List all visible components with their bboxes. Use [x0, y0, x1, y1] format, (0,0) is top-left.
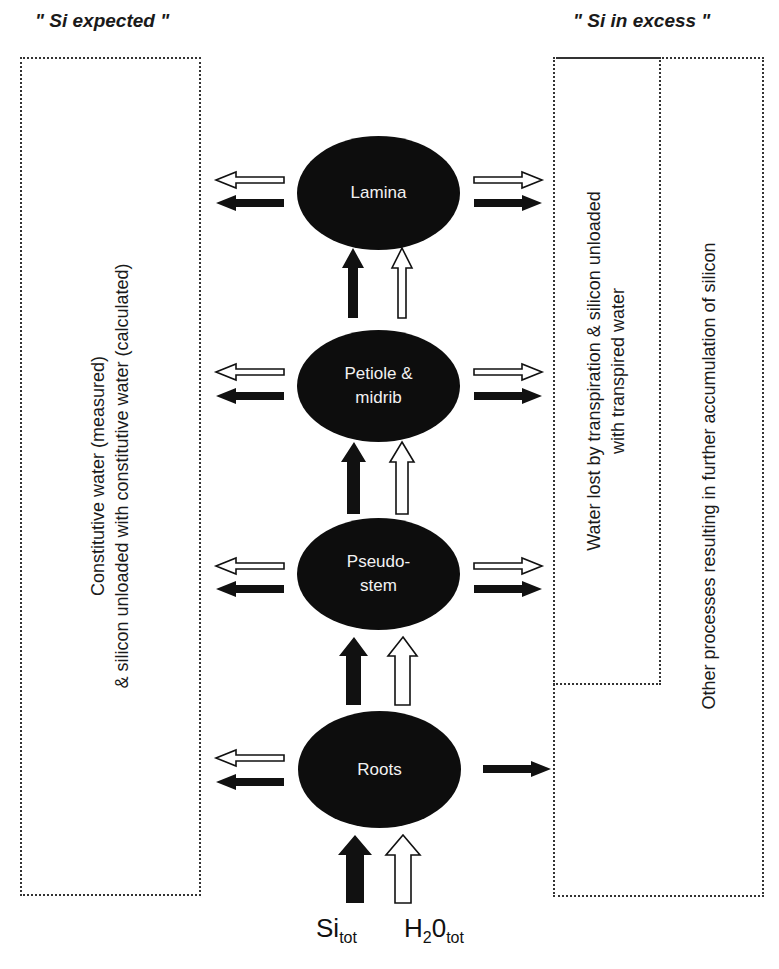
arrow-petiole-water-right	[474, 364, 542, 380]
arrow-si-input-to-roots	[338, 835, 372, 903]
si-base: Si	[316, 913, 339, 943]
arrow-pseudostem-si-left	[216, 581, 284, 597]
node-pseudostem-label-line2: stem	[347, 574, 410, 598]
si-subscript: tot	[339, 929, 357, 946]
node-pseudostem: Pseudo- stem	[297, 518, 460, 630]
arrow-water-input-to-roots	[386, 835, 420, 903]
node-roots: Roots	[298, 711, 461, 828]
node-lamina-label: Lamina	[351, 181, 407, 205]
arrow-water-pseudostem-to-petiole	[390, 442, 414, 514]
arrow-petiole-si-right	[474, 388, 542, 404]
input-label-si-tot: Sitot	[316, 913, 357, 947]
input-label-h2o-tot: H20tot	[404, 913, 464, 947]
arrow-roots-si-right	[483, 761, 551, 777]
arrow-lamina-si-right	[474, 195, 542, 211]
node-roots-label: Roots	[357, 758, 401, 782]
arrow-petiole-water-left	[216, 364, 284, 380]
arrow-lamina-si-left	[216, 195, 284, 211]
arrow-si-petiole-to-lamina	[342, 248, 364, 318]
arrow-roots-si-left	[216, 774, 284, 790]
node-petiole-midrib: Petiole & midrib	[297, 330, 460, 442]
node-lamina: Lamina	[297, 136, 460, 250]
h2o-base2: 0	[432, 913, 446, 943]
node-petiole-label-line2: midrib	[344, 386, 412, 410]
arrow-pseudostem-si-right	[474, 581, 542, 597]
arrow-lamina-water-right	[474, 172, 542, 188]
arrow-pseudostem-water-right	[474, 558, 542, 574]
arrow-water-roots-to-pseudostem	[388, 637, 417, 705]
arrow-lamina-water-left	[216, 172, 284, 188]
arrow-si-roots-to-pseudostem	[339, 637, 368, 705]
arrow-pseudostem-water-left	[216, 558, 284, 574]
arrow-si-pseudostem-to-petiole	[341, 442, 366, 514]
h2o-subscript-2: 2	[423, 929, 432, 946]
node-pseudostem-label-line1: Pseudo-	[347, 550, 410, 574]
h2o-subscript-tot: tot	[446, 929, 464, 946]
h2o-base: H	[404, 913, 423, 943]
arrow-petiole-si-left	[216, 388, 284, 404]
node-petiole-label-line1: Petiole &	[344, 362, 412, 386]
arrow-water-petiole-to-lamina	[392, 248, 412, 318]
arrow-roots-water-left	[216, 750, 284, 766]
